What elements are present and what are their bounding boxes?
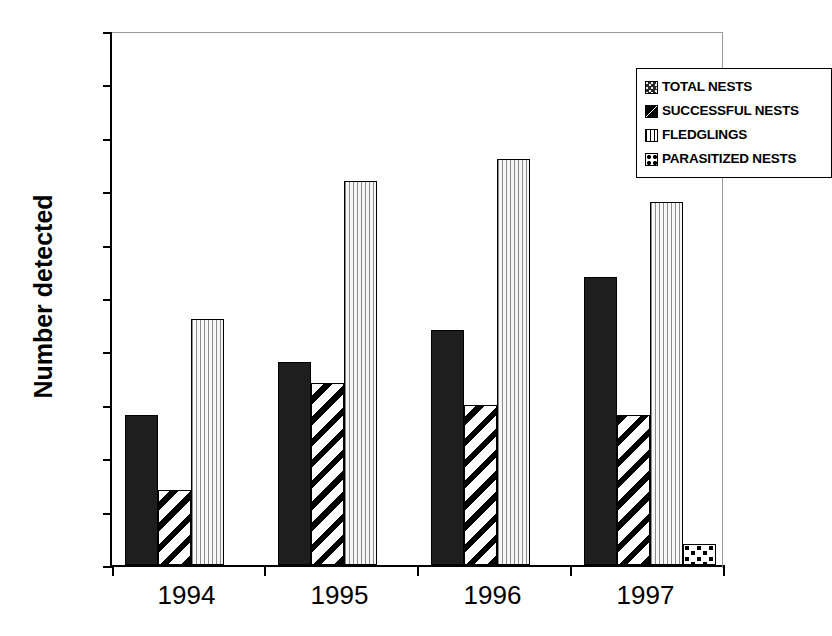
legend-label-fledglings: FLEDGLINGS <box>662 128 747 142</box>
bar-fledglings-1995 <box>344 181 377 565</box>
legend-swatch-icon-parasitized-nests <box>645 153 658 166</box>
y-axis-tick <box>103 352 112 354</box>
x-axis-tick-label-1996: 1996 <box>413 582 573 608</box>
legend-label-parasitized-nests: PARASITIZED NESTS <box>662 152 796 166</box>
legend-item-total-nests[interactable]: TOTAL NESTS <box>645 76 825 98</box>
x-axis-tick <box>723 565 725 576</box>
bar-total-nests-1997 <box>584 277 617 565</box>
bar-fledglings-1997 <box>650 202 683 565</box>
bar-successful-nests-1995 <box>311 383 344 565</box>
y-axis-tick <box>103 459 112 461</box>
bar-total-nests-1995 <box>278 362 311 565</box>
bar-group-1996 <box>418 31 571 565</box>
x-axis-tick <box>417 565 419 576</box>
bar-total-nests-1994 <box>125 415 158 565</box>
legend-label-total-nests: TOTAL NESTS <box>662 80 752 94</box>
legend: TOTAL NESTS SUCCESSFUL NESTS FLEDGLINGS … <box>636 68 832 178</box>
bar-fledglings-1996 <box>497 159 530 565</box>
legend-swatch-icon-total-nests <box>645 81 658 94</box>
y-axis-tick <box>103 85 112 87</box>
y-axis-tick <box>103 299 112 301</box>
legend-item-fledglings[interactable]: FLEDGLINGS <box>645 124 825 146</box>
plot-area: TOTAL NESTS SUCCESSFUL NESTS FLEDGLINGS … <box>110 33 722 567</box>
bar-successful-nests-1996 <box>464 405 497 565</box>
x-axis-tick <box>570 565 572 576</box>
y-axis-tick <box>103 246 112 248</box>
bar-parasitized-nests-1997 <box>683 544 716 565</box>
y-axis-tick <box>103 32 112 34</box>
bar-fledglings-1994 <box>191 319 224 565</box>
x-axis-tick <box>264 565 266 576</box>
x-axis-tick-label-1994: 1994 <box>107 582 267 608</box>
bar-successful-nests-1994 <box>158 490 191 565</box>
x-axis-tick-label-1995: 1995 <box>260 582 420 608</box>
legend-swatch-icon-fledglings <box>645 129 658 142</box>
bar-total-nests-1996 <box>431 330 464 565</box>
legend-label-successful-nests: SUCCESSFUL NESTS <box>662 104 799 118</box>
bar-successful-nests-1997 <box>617 415 650 565</box>
y-axis-tick <box>103 566 112 568</box>
y-axis-tick <box>103 406 112 408</box>
legend-item-successful-nests[interactable]: SUCCESSFUL NESTS <box>645 100 825 122</box>
x-axis-tick-label-1997: 1997 <box>566 582 726 608</box>
bar-group-1995 <box>265 31 418 565</box>
y-axis-tick <box>103 513 112 515</box>
bar-group-1994 <box>112 31 265 565</box>
x-axis-tick <box>112 565 114 576</box>
y-axis-tick <box>103 192 112 194</box>
legend-item-parasitized-nests[interactable]: PARASITIZED NESTS <box>645 148 825 170</box>
legend-swatch-icon-successful-nests <box>645 105 658 118</box>
y-axis-tick <box>103 139 112 141</box>
y-axis-title: Number detected <box>29 132 58 462</box>
